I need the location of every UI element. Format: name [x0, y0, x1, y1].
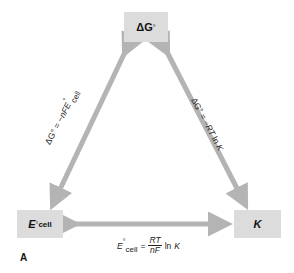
- eq-bottom-fraction: RT nF: [148, 236, 161, 255]
- node-e-cell-sub: cell: [38, 220, 51, 229]
- eq-bottom-lhs-sub: cell: [125, 245, 137, 254]
- eq-bottom-ln: ln: [165, 241, 172, 251]
- node-e-cell: E°cell: [17, 210, 63, 238]
- equation-ecell-k: E°cell = RT nF ln K: [117, 236, 180, 255]
- node-k-symbol: K: [254, 218, 262, 230]
- panel-label: A: [20, 252, 27, 263]
- eq-bottom-lhs: E°cell: [117, 238, 138, 254]
- node-e-cell-symbol: E: [28, 218, 35, 230]
- node-delta-g-symbol: ΔG: [136, 21, 152, 33]
- node-delta-g-sup: °: [153, 24, 156, 31]
- eq-bottom-equals: =: [141, 241, 146, 251]
- node-k: K: [234, 210, 281, 238]
- node-delta-g: ΔG°: [124, 12, 168, 42]
- eq-bottom-denominator: nF: [150, 246, 160, 255]
- eq-bottom-lhs-sup: °: [123, 238, 126, 245]
- eq-bottom-k: K: [174, 241, 180, 251]
